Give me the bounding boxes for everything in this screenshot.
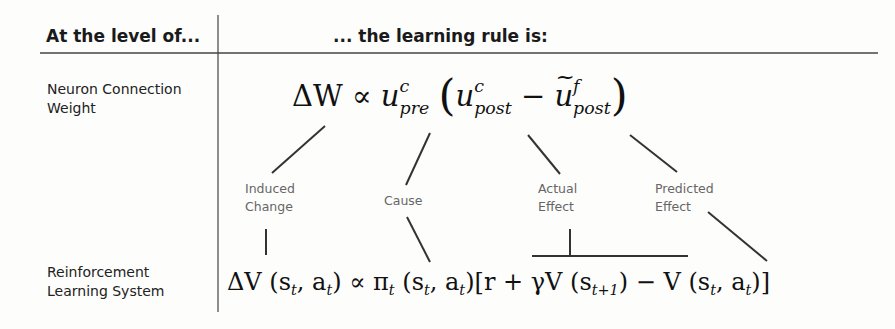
annotation-predicted-line1: Predicted (655, 180, 714, 198)
eq2-pi: π (373, 268, 389, 296)
connector-cause-bottom (407, 217, 430, 262)
eq2-pi-sub: t (389, 282, 395, 298)
annotation-actual-effect: Actual Effect (538, 180, 577, 216)
eq2-comma-a: , a (297, 268, 327, 296)
eq2-pi-comma-a: , a (430, 268, 460, 296)
eq1-pred-scripts: fpost (573, 78, 611, 117)
eq1-rparen: ) (611, 70, 628, 120)
annotation-cause-line1: Cause (384, 192, 423, 210)
annotation-induced-line1: Induced (245, 180, 295, 198)
equation-neuron: ΔW ∝ ucpre (ucpost − ufpost) (292, 70, 628, 120)
row-label-rl-line2: Learning System (47, 282, 164, 301)
annotation-cause: Cause (384, 192, 423, 210)
annotation-induced-change: Induced Change (245, 180, 295, 216)
connector-actual-top (528, 135, 560, 174)
eq1-u-predicted: u (554, 79, 573, 113)
connector-predicted-top (630, 135, 677, 172)
row-label-neuron-line1: Neuron Connection (47, 80, 182, 99)
eq2-minus-v: ) − V (619, 268, 681, 296)
header-learning-rule: ... the learning rule is: (333, 26, 548, 46)
eq2-delta-v: ΔV (227, 268, 262, 296)
eq2-bracket-close: )] (751, 268, 770, 296)
equation-rl: ΔV (st, at) ∝ πt (st, at)[r + γV (st+1) … (227, 268, 770, 298)
eq2-v-args-open: (s (570, 268, 592, 296)
connector-induced-top (272, 126, 325, 173)
eq1-minus: − (521, 79, 545, 113)
eq2-bracket-open: [r + γV (475, 268, 563, 296)
eq2-pi-args-open: (s (402, 268, 424, 296)
row-label-rl-line1: Reinforcement (47, 263, 164, 282)
eq1-post-scripts: cpost (474, 78, 512, 117)
eq1-proportional: ∝ (352, 79, 372, 113)
eq2-v2-comma-a: , a (716, 268, 746, 296)
eq1-delta-w: ΔW (292, 79, 343, 113)
eq2-args-open: (s (269, 268, 291, 296)
connector-predicted-bottom (708, 212, 767, 261)
annotation-predicted-line2: Effect (655, 198, 714, 216)
annotation-induced-line2: Change (245, 198, 295, 216)
eq1-lparen: ( (438, 70, 455, 120)
eq2-close: ) (332, 268, 341, 296)
eq2-sub-t1: t+1 (592, 282, 619, 298)
annotation-predicted-effect: Predicted Effect (655, 180, 714, 216)
eq2-pi-close: ) (465, 268, 474, 296)
row-label-neuron: Neuron Connection Weight (47, 80, 182, 118)
row-label-neuron-line2: Weight (47, 99, 182, 118)
eq1-u-pre: u (381, 79, 400, 113)
eq1-pre-scripts: cpre (400, 78, 430, 117)
row-label-rl: Reinforcement Learning System (47, 263, 164, 301)
header-level: At the level of... (46, 26, 200, 46)
connector-cause-top (406, 133, 430, 185)
annotation-actual-line2: Effect (538, 198, 577, 216)
eq1-u-post: u (455, 79, 474, 113)
eq2-proportional: ∝ (349, 268, 365, 296)
eq2-v2-args-open: (s (688, 268, 710, 296)
annotation-actual-line1: Actual (538, 180, 577, 198)
